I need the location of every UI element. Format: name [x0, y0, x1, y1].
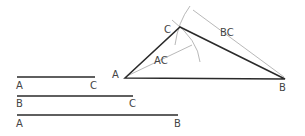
- triangle: A B C AC BC: [112, 24, 286, 93]
- arc-from-a: [172, 20, 200, 62]
- radius-label-ac: AC: [154, 55, 168, 66]
- segment-bc-end-label: C: [129, 98, 136, 109]
- given-segments: A C B C A B: [16, 77, 181, 129]
- segment-ab-start-label: A: [16, 118, 23, 129]
- triangle-construction-diagram: A C B C A B A B C AC BC: [0, 0, 305, 136]
- segment-ab-end-label: B: [174, 118, 181, 129]
- segment-bc-start-label: B: [16, 98, 23, 109]
- triangle-vertex-a-label: A: [112, 69, 119, 80]
- arc-from-b: [175, 6, 190, 45]
- radius-label-bc: BC: [220, 27, 234, 38]
- radius-line-bc: [193, 10, 284, 77]
- diagram-canvas: A C B C A B A B C AC BC: [0, 0, 305, 136]
- triangle-abc: [125, 27, 285, 79]
- triangle-vertex-b-label: B: [279, 82, 286, 93]
- segment-ac-start-label: A: [16, 80, 23, 91]
- triangle-vertex-c-label: C: [164, 24, 171, 35]
- segment-ac-end-label: C: [90, 80, 97, 91]
